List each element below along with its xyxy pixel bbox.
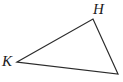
geometry-figure: H K — [0, 0, 123, 82]
triangle-drawing — [0, 0, 123, 82]
triangle-outline — [17, 19, 118, 74]
vertex-label-k: K — [2, 54, 12, 69]
vertex-label-h: H — [93, 2, 104, 17]
